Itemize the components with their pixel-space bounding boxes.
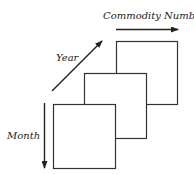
month-label: Month [7, 131, 40, 141]
year-label: Year [56, 53, 78, 63]
commodity-number-label: Commodity Number [103, 11, 194, 21]
layered-data-cube-diagram [0, 0, 194, 175]
front-layer-box [54, 105, 116, 169]
diagram-canvas: Commodity Number Year Month [0, 0, 194, 175]
